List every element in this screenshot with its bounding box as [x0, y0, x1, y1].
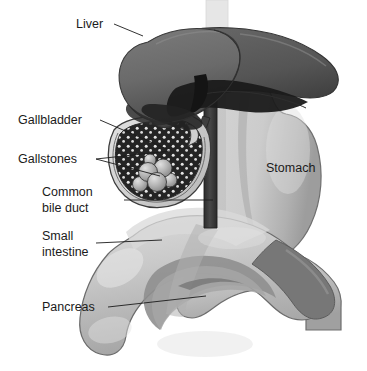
- label-gallbladder: Gallbladder: [18, 113, 82, 127]
- label-common-bile-duct-line1: Common: [42, 185, 93, 199]
- label-small-intestine-line2: intestine: [42, 245, 89, 259]
- label-liver: Liver: [76, 17, 103, 31]
- label-gallstones: Gallstones: [18, 152, 77, 166]
- anatomy-illustration: Liver Gallbladder Gallstones Common bile…: [0, 0, 367, 371]
- label-small-intestine-line1: Small: [42, 229, 73, 243]
- label-stomach: Stomach: [266, 161, 315, 175]
- label-common-bile-duct-line2: bile duct: [42, 201, 89, 215]
- label-pancreas: Pancreas: [42, 300, 95, 314]
